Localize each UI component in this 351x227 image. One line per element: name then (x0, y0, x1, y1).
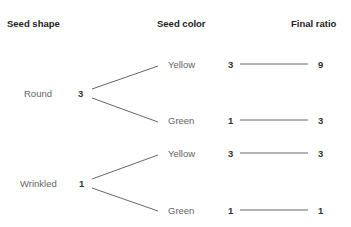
color-value-round-yellow: 3 (228, 59, 233, 70)
shape-label-wrinkled: Wrinkled (20, 178, 57, 189)
shape-value-round: 3 (78, 88, 83, 99)
ratio-wrinkled-yellow: 3 (318, 148, 323, 159)
color-label-wrinkled-yellow: Yellow (168, 148, 195, 159)
color-value-wrinkled-green: 1 (228, 205, 233, 216)
color-label-round-green: Green (168, 115, 194, 126)
ratio-wrinkled-green: 1 (318, 205, 323, 216)
connector-lines (0, 0, 351, 227)
color-label-wrinkled-green: Green (168, 205, 194, 216)
color-value-wrinkled-yellow: 3 (228, 148, 233, 159)
color-value-round-green: 1 (228, 115, 233, 126)
shape-label-round: Round (24, 88, 52, 99)
ratio-round-yellow: 9 (318, 59, 323, 70)
color-label-round-yellow: Yellow (168, 59, 195, 70)
ratio-round-green: 3 (318, 115, 323, 126)
shape-value-wrinkled: 1 (79, 178, 84, 189)
